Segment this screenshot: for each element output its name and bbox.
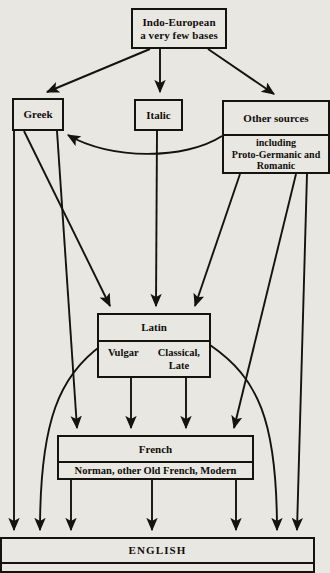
latin-classical-line1: Classical, <box>158 346 200 359</box>
node-italic-label: Italic <box>136 101 181 129</box>
node-greek-label: Greek <box>14 100 62 129</box>
other-sources-line3: Romanic <box>257 160 295 172</box>
indo-european-line1: Indo-European <box>142 16 215 29</box>
edge-indoeuropean-other <box>208 49 274 94</box>
edge-other-french <box>234 174 296 428</box>
english-header: ENGLISH <box>2 539 313 562</box>
other-sources-line2: Proto-Germanic and <box>232 149 320 161</box>
edge-other-english <box>297 174 307 530</box>
other-sources-line1: including <box>256 137 296 149</box>
node-italic[interactable]: Italic <box>134 99 183 131</box>
indo-european-line2: a very few bases <box>140 29 218 42</box>
latin-classical-line2: Late <box>169 359 189 372</box>
diagram-canvas: Indo-European a very few bases Greek Ita… <box>0 0 330 573</box>
other-sources-header: Other sources <box>224 102 328 134</box>
latin-vulgar: Vulgar <box>108 346 139 359</box>
node-french[interactable]: French Norman, other Old French, Modern <box>57 435 254 480</box>
connector-layer <box>0 0 330 573</box>
english-cutoff-row <box>2 562 313 573</box>
french-body: Norman, other Old French, Modern <box>59 461 252 479</box>
node-latin[interactable]: Latin Vulgar Classical, Late <box>97 313 211 378</box>
node-indo-european-text: Indo-European a very few bases <box>133 10 225 47</box>
edge-indoeuropean-greek <box>47 49 150 92</box>
latin-body: Vulgar Classical, Late <box>99 340 209 377</box>
edge-other-latin <box>195 174 240 306</box>
node-other-sources[interactable]: Other sources including Proto-Germanic a… <box>222 100 330 174</box>
node-greek[interactable]: Greek <box>12 98 64 131</box>
latin-header: Latin <box>99 315 209 340</box>
other-sources-body: including Proto-Germanic and Romanic <box>224 134 328 173</box>
french-header: French <box>59 437 252 461</box>
edge-italic-latin <box>156 131 157 306</box>
latin-classical: Classical, Late <box>158 346 200 372</box>
node-english[interactable]: ENGLISH <box>0 537 315 573</box>
latin-vulgar-label: Vulgar <box>108 346 139 359</box>
node-indo-european[interactable]: Indo-European a very few bases <box>131 8 227 49</box>
edge-other-greek <box>68 135 222 154</box>
